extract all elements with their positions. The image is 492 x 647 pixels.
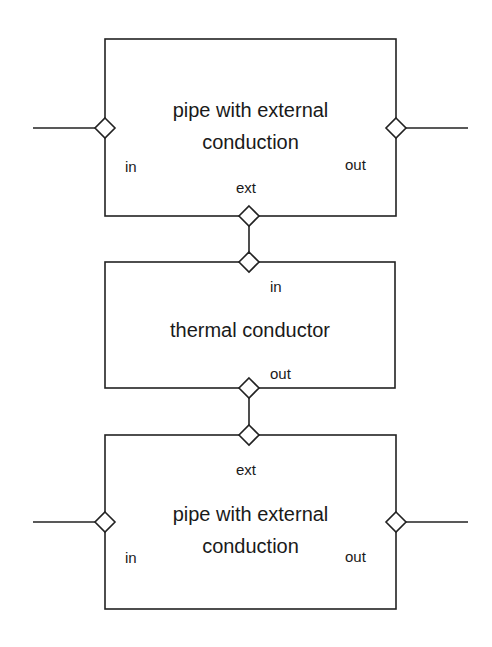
top-pipe-in-label: in	[125, 158, 137, 175]
bottom-pipe-title-line1: pipe with external	[105, 502, 396, 526]
bottom-pipe-out-label: out	[345, 548, 366, 565]
thermal-in-port-icon	[239, 252, 259, 272]
bottom-pipe-ext-port-icon	[239, 425, 259, 445]
bottom-pipe-ext-label: ext	[236, 461, 256, 478]
thermal-title: thermal conductor	[105, 318, 395, 342]
thermal-out-port-icon	[239, 378, 259, 398]
top-pipe-title-line2: conduction	[105, 130, 396, 154]
top-pipe-title-line1: pipe with external	[105, 98, 396, 122]
thermal-in-label: in	[270, 278, 282, 295]
top-pipe-ext-port-icon	[239, 206, 259, 226]
top-pipe-ext-label: ext	[236, 179, 256, 196]
top-pipe-out-label: out	[345, 156, 366, 173]
bottom-pipe-in-label: in	[125, 549, 137, 566]
thermal-out-label: out	[270, 365, 291, 382]
